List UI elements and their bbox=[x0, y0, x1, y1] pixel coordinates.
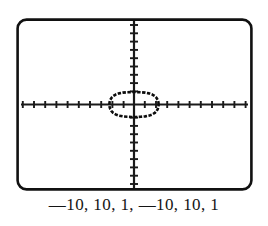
calculator-screen bbox=[16, 18, 253, 191]
graph-svg bbox=[16, 18, 253, 191]
calculator-figure: —10, 10, 1, —10, 10, 1 bbox=[0, 0, 268, 226]
window-settings-caption: —10, 10, 1, —10, 10, 1 bbox=[0, 195, 268, 215]
